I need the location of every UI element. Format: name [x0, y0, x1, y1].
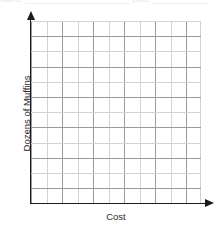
cut-off-header-text-value: Name ______________________ Date _______… — [0, 0, 224, 4]
gridline-horizontal — [31, 143, 201, 144]
y-axis-label: Dozens of Muffins — [21, 64, 32, 164]
gridline-horizontal — [31, 112, 201, 113]
coordinate-grid-figure: Name ______________________ Date _______… — [0, 0, 224, 228]
plot-area — [31, 21, 201, 203]
x-axis — [30, 203, 208, 204]
gridline-horizontal — [31, 158, 201, 159]
gridline-horizontal — [31, 127, 201, 128]
gridline-horizontal — [31, 51, 201, 52]
gridline-horizontal — [31, 36, 201, 37]
x-axis-label: Cost — [31, 211, 201, 222]
gridline-horizontal — [31, 67, 201, 68]
gridline-horizontal — [31, 188, 201, 189]
cut-off-header-text: Name ______________________ Date _______… — [0, 0, 224, 4]
gridline-horizontal — [31, 21, 201, 22]
gridline-horizontal — [31, 82, 201, 83]
arrow-right-icon — [205, 199, 214, 207]
gridline-horizontal — [31, 173, 201, 174]
arrow-up-icon — [27, 11, 35, 20]
gridline-horizontal — [31, 97, 201, 98]
